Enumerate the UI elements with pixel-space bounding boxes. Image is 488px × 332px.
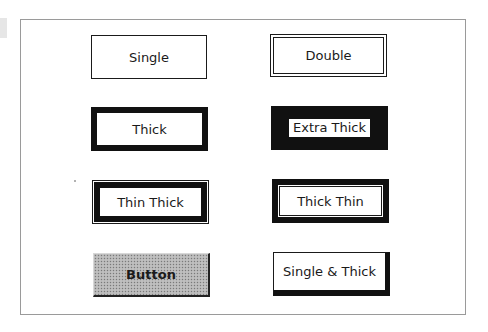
- box-single: Single: [91, 35, 207, 79]
- box-button[interactable]: Button: [93, 253, 210, 297]
- diagram-frame: [20, 19, 466, 315]
- edge-marker: [0, 18, 7, 38]
- box-thick-thin-inner: Thick Thin: [278, 185, 383, 217]
- box-single-label: Single: [129, 50, 169, 65]
- box-double-label: Double: [305, 48, 351, 63]
- box-thick-label: Thick: [132, 122, 166, 137]
- box-button-label: Button: [126, 267, 176, 282]
- box-thin-thick: Thin Thick: [92, 180, 209, 224]
- box-extra-thick: Extra Thick: [271, 106, 388, 150]
- box-thick: Thick: [91, 107, 208, 151]
- box-single-and-thick-label: Single & Thick: [283, 264, 376, 279]
- box-double: Double: [270, 34, 387, 77]
- box-thin-thick-label: Thin Thick: [117, 195, 184, 210]
- box-extra-thick-label: Extra Thick: [289, 119, 370, 137]
- box-thick-thin: Thick Thin: [272, 179, 389, 223]
- box-thick-thin-label: Thick Thin: [297, 194, 364, 209]
- box-single-and-thick: Single & Thick: [273, 252, 390, 296]
- box-thin-thick-inner: Thin Thick: [94, 182, 207, 222]
- stray-dot: [74, 180, 76, 182]
